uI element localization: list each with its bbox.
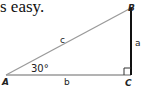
side-b-label: b — [64, 77, 70, 87]
vertex-a-label: A — [1, 77, 9, 87]
side-c-label: c — [60, 35, 65, 45]
vertex-c-label: C — [125, 78, 132, 88]
side-a-label: a — [135, 38, 141, 48]
angle-30-label: 30° — [31, 63, 49, 74]
hypotenuse-c — [6, 8, 131, 75]
right-triangle-diagram: B A C c a b 30° — [0, 0, 142, 90]
right-angle-marker — [124, 68, 131, 75]
vertex-b-label: B — [128, 3, 135, 13]
